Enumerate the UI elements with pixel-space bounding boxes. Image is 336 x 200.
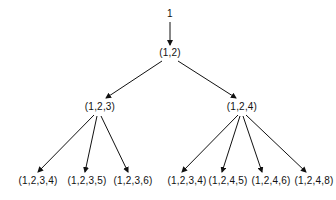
- edge-arrow: [246, 115, 306, 172]
- tree-node-label: (1,2,3,4): [18, 175, 57, 187]
- tree-node-label: (1,2,4): [227, 101, 257, 113]
- tree-node-label: (1,2): [159, 47, 181, 59]
- tree-node-label: (1,2,3,4): [167, 175, 206, 187]
- tree-node-label: (1,2,3,5): [67, 175, 106, 187]
- tree-edges: [0, 0, 336, 200]
- tree-node-label: (1,2,3): [85, 101, 115, 113]
- edge-arrow: [85, 116, 97, 172]
- edge-arrow: [101, 116, 128, 172]
- edge-arrow: [106, 61, 162, 98]
- edge-arrow: [243, 116, 262, 172]
- tree-node-label: (1,2,4,6): [251, 175, 290, 187]
- edge-arrow: [178, 61, 236, 98]
- tree-node-label: (1,2,3,6): [113, 175, 152, 187]
- tree-node-label: (1,2,4,5): [208, 175, 247, 187]
- edge-arrow: [38, 115, 94, 172]
- root-node-label: 1: [167, 8, 173, 20]
- edge-arrow: [222, 116, 240, 172]
- edge-arrow: [182, 115, 238, 172]
- tree-node-label: (1,2,4,8): [294, 175, 333, 187]
